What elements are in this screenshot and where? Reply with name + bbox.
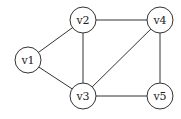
node-v3: v3 [70,83,96,109]
edges [28,20,160,96]
node-label: v5 [152,90,166,103]
node-v1: v1 [15,47,41,73]
nodes: v1v2v3v4v5 [15,7,173,109]
edge-v3-v4 [83,20,160,96]
node-label: v2 [75,14,89,27]
node-label: v4 [152,14,166,27]
node-label: v3 [75,90,89,103]
node-v5: v5 [147,83,173,109]
node-label: v1 [20,54,34,67]
graph-diagram: v1v2v3v4v5 [0,0,181,119]
node-v2: v2 [70,7,96,33]
node-v4: v4 [147,7,173,33]
